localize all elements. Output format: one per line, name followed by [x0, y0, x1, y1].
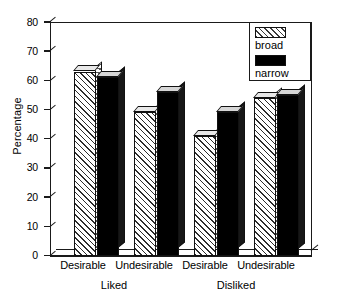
- bar-narrow-0: [97, 77, 119, 255]
- bar-side: [238, 102, 245, 249]
- bar-side: [118, 67, 125, 249]
- bar-side: [298, 84, 305, 248]
- bar-face: [75, 73, 95, 255]
- y-tick-label: 10: [14, 221, 38, 231]
- group-label: Liked: [80, 279, 148, 291]
- bar-face: [135, 113, 155, 254]
- x-axis-label: Desirable: [49, 259, 117, 271]
- y-tick-label: 30: [14, 162, 38, 172]
- bar-narrow-1: [157, 92, 179, 255]
- legend-swatch-broad: [255, 27, 286, 38]
- y-tick-label: 80: [14, 17, 38, 27]
- legend-swatch-narrow: [255, 55, 286, 66]
- x-axis-label: Undesirable: [110, 259, 178, 271]
- bar-face: [195, 137, 215, 255]
- legend: broad narrow: [249, 22, 311, 81]
- bar-broad-1: [134, 112, 156, 255]
- y-tick-label: 70: [14, 46, 38, 56]
- bar-face: [278, 96, 298, 255]
- bar-face: [218, 113, 238, 254]
- bar-narrow-3: [277, 95, 299, 256]
- bar-narrow-2: [217, 112, 239, 255]
- bar-broad-0: [74, 72, 96, 256]
- y-tick-label: 40: [14, 133, 38, 143]
- bar-broad-2: [194, 136, 216, 256]
- x-axis-label: Undesirable: [232, 259, 300, 271]
- y-tick-label: 50: [14, 104, 38, 114]
- bar-chart: Percentage 01020304050607080 broad narro…: [0, 0, 346, 306]
- bar-face: [98, 78, 118, 254]
- bar-face: [255, 99, 275, 255]
- legend-label-broad: broad: [255, 39, 305, 52]
- legend-label-narrow: narrow: [255, 67, 305, 80]
- bar-broad-3: [254, 98, 276, 256]
- y-tick-label: 60: [14, 75, 38, 85]
- bar-side: [178, 82, 185, 249]
- group-label: Disliked: [202, 279, 270, 291]
- y-tick-label: 0: [14, 250, 38, 260]
- x-axis-label: Desirable: [171, 259, 239, 271]
- y-tick-label: 20: [14, 192, 38, 202]
- bar-face: [158, 93, 178, 254]
